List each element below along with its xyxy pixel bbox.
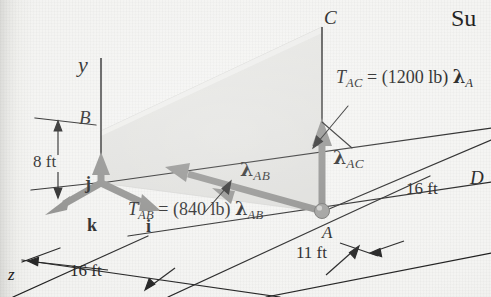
lambda-AC-subscript: AC (346, 156, 363, 171)
point-label-B: B (79, 108, 91, 127)
T-AC-close: ) (442, 67, 453, 87)
T-AB-lambda: λ (235, 198, 248, 219)
axis-label-y: y (78, 54, 88, 76)
vector-label-lambda-AC: λAC (333, 148, 364, 170)
lambda-AC-glyph: λ (333, 146, 346, 168)
unit-vector-label-k: k (87, 216, 97, 234)
leader-layer (0, 0, 491, 297)
axis-label-z: z (8, 266, 15, 283)
T-AB-equals: = ( (154, 199, 179, 219)
point-label-C: C (324, 8, 337, 27)
vector-label-T-AC: TAC = (1200 lb) λA (336, 68, 473, 89)
T-AC-subscript: AC (346, 76, 363, 90)
vector-label-T-AB: TAB = (840 lb) λAB (128, 200, 263, 221)
T-AB-symbol: T (128, 199, 138, 219)
T-AC-magnitude: 1200 lb (388, 67, 443, 87)
dimension-label-16ft-z: 16 ft (70, 262, 102, 279)
lambda-AB-subscript: AB (253, 168, 270, 183)
point-label-D: D (470, 168, 484, 187)
lambda-AB-glyph: λ (240, 158, 253, 180)
T-AB-subscript: AB (138, 208, 154, 222)
page-heading-cut-off: Su (451, 6, 476, 30)
dimension-label-8ft: 8 ft (33, 153, 56, 170)
figure-canvas: y z B C A D j k i 8 ft 16 ft 11 ft 16 ft… (0, 0, 491, 297)
T-AB-magnitude: 840 lb (179, 199, 225, 219)
unit-vector-label-j: j (85, 174, 91, 192)
T-AC-lambda-subscript: A (465, 76, 473, 90)
T-AB-lambda-subscript: AB (248, 208, 264, 222)
leader-T-AC-cross (322, 122, 352, 148)
dimension-label-16ft-x: 16 ft (406, 180, 438, 197)
dimension-label-11ft: 11 ft (296, 244, 327, 261)
T-AC-lambda: λ (453, 66, 466, 87)
T-AC-symbol: T (336, 67, 346, 87)
leader-T-AC (318, 106, 348, 142)
T-AC-equals: = ( (363, 67, 388, 87)
point-label-A: A (322, 224, 332, 241)
vector-label-lambda-AB: λAB (240, 160, 270, 182)
T-AB-close: ) (224, 199, 235, 219)
